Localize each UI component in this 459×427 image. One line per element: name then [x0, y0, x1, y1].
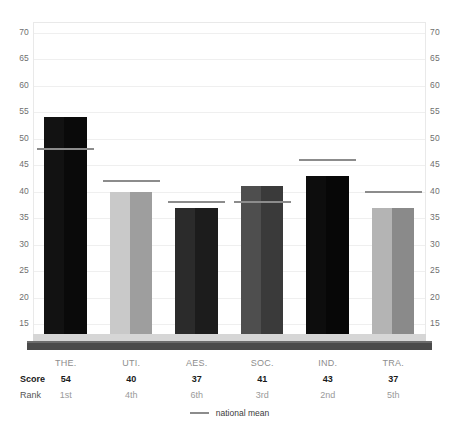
national-mean-line [365, 191, 422, 193]
platform-top-surface [33, 334, 426, 341]
national-mean-line [103, 180, 160, 182]
legend-label: national mean [216, 408, 269, 418]
rank-value: 2nd [295, 387, 361, 403]
bar-face-left [175, 208, 195, 341]
category-label: AES. [164, 355, 230, 371]
y-axis-tick-right: 55 [430, 106, 448, 116]
chart-root: 706560555045403530252015 706560555045403… [0, 0, 459, 427]
bar-group[interactable] [361, 22, 427, 340]
y-axis-tick-left: 60 [11, 80, 29, 90]
bar-group[interactable] [99, 22, 165, 340]
bar-face-right [326, 176, 349, 340]
score-value: 43 [295, 371, 361, 387]
y-axis-tick-left: 40 [11, 186, 29, 196]
legend: national mean [0, 408, 459, 418]
y-axis-tick-right: 35 [430, 212, 448, 222]
y-axis-tick-right: 65 [430, 53, 448, 63]
category-label: IND. [295, 355, 361, 371]
score-value: 41 [230, 371, 296, 387]
y-axis-tick-left: 70 [11, 27, 29, 37]
y-axis-tick-left: 35 [11, 212, 29, 222]
y-axis-tick-right: 70 [430, 27, 448, 37]
bar-uti[interactable] [110, 192, 153, 340]
y-axis-tick-right: 60 [430, 80, 448, 90]
bar-face-right [392, 208, 415, 341]
bar-face-right [261, 186, 284, 340]
bar-face-right [130, 192, 153, 340]
bar-soc[interactable] [241, 186, 284, 340]
bar-group[interactable] [230, 22, 296, 340]
rank-value: 4th [99, 387, 165, 403]
category-label: SOC. [230, 355, 296, 371]
table-row: Score 544037414337 [0, 371, 459, 387]
national-mean-line [299, 159, 356, 161]
score-value: 54 [33, 371, 99, 387]
bar-face-right [195, 208, 218, 341]
platform-top-edge [27, 341, 432, 343]
y-axis-tick-right: 45 [430, 159, 448, 169]
rank-value: 1st [33, 387, 99, 403]
bar-face-left [306, 176, 326, 340]
score-value: 37 [361, 371, 427, 387]
y-axis-tick-right: 30 [430, 239, 448, 249]
bar-group[interactable] [295, 22, 361, 340]
national-mean-line [37, 148, 94, 150]
data-table: THE.UTI.AES.SOC.IND.TRA. Score 544037414… [0, 355, 459, 403]
y-axis-tick-right: 20 [430, 292, 448, 302]
y-axis-tick-right: 15 [430, 318, 448, 328]
y-axis-tick-left: 15 [11, 318, 29, 328]
bar-the[interactable] [44, 117, 87, 340]
rank-value: 3rd [230, 387, 296, 403]
category-label: TRA. [361, 355, 427, 371]
y-axis-tick-right: 25 [430, 265, 448, 275]
national-mean-line [234, 201, 291, 203]
y-axis-tick-right: 40 [430, 186, 448, 196]
bars-layer [33, 22, 426, 340]
y-axis-tick-left: 55 [11, 106, 29, 116]
category-label: UTI. [99, 355, 165, 371]
y-axis-tick-left: 30 [11, 239, 29, 249]
bar-face-left [44, 117, 64, 340]
y-axis-left: 706560555045403530252015 [9, 22, 29, 340]
category-label: THE. [33, 355, 99, 371]
bar-face-left [110, 192, 130, 340]
table-row: THE.UTI.AES.SOC.IND.TRA. [0, 355, 459, 371]
y-axis-tick-left: 65 [11, 53, 29, 63]
national-mean-line [168, 201, 225, 203]
y-axis-tick-left: 25 [11, 265, 29, 275]
bar-face-left [372, 208, 392, 341]
bar-ind[interactable] [306, 176, 349, 340]
score-value: 40 [99, 371, 165, 387]
bar-tra[interactable] [372, 208, 415, 341]
y-axis-tick-left: 45 [11, 159, 29, 169]
y-axis-tick-right: 50 [430, 133, 448, 143]
y-axis-right: 706560555045403530252015 [430, 22, 450, 340]
y-axis-tick-left: 50 [11, 133, 29, 143]
bar-face-left [241, 186, 261, 340]
score-value: 37 [164, 371, 230, 387]
bar-group[interactable] [164, 22, 230, 340]
table-row: Rank 1st4th6th3rd2nd5th [0, 387, 459, 403]
bar-face-right [64, 117, 87, 340]
rank-value: 5th [361, 387, 427, 403]
bar-group[interactable] [33, 22, 99, 340]
rank-value: 6th [164, 387, 230, 403]
bar-aes[interactable] [175, 208, 218, 341]
y-axis-tick-left: 20 [11, 292, 29, 302]
legend-line-swatch [190, 412, 209, 414]
